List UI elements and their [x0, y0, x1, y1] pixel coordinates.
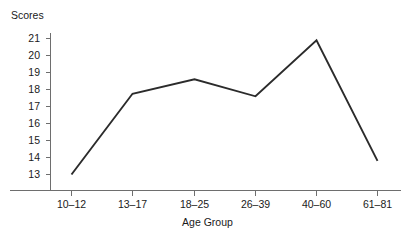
x-tick-label: 13–17 — [103, 199, 163, 210]
x-tick-label: 61–81 — [348, 199, 408, 210]
y-tick-label: 17 — [14, 101, 40, 112]
y-tick-label: 20 — [14, 50, 40, 61]
y-tick-label: 15 — [14, 135, 40, 146]
y-tick-label: 16 — [14, 118, 40, 129]
x-tick-label: 40–60 — [287, 199, 347, 210]
x-tick-label: 26–39 — [226, 199, 286, 210]
x-axis-title: Age Group — [0, 216, 415, 228]
y-axis — [46, 33, 51, 190]
y-tick-label: 14 — [14, 152, 40, 163]
x-tick-label: 18–25 — [165, 199, 225, 210]
y-tick-label: 13 — [14, 169, 40, 180]
data-series-line — [72, 40, 378, 174]
y-tick-label: 18 — [14, 84, 40, 95]
y-tick-label: 21 — [14, 33, 40, 44]
y-tick-label: 19 — [14, 67, 40, 78]
x-tick-label: 10–12 — [42, 199, 102, 210]
x-axis — [10, 191, 401, 197]
line-chart: Scores 131415161718192021 10–1213–1718–2… — [0, 0, 415, 243]
